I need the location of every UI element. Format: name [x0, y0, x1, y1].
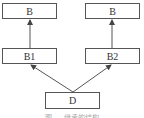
node-label: B	[109, 6, 116, 17]
node-label: D	[69, 95, 76, 106]
edge-d-to-b1	[31, 65, 73, 92]
node-b-right: B	[85, 3, 140, 19]
node-b1: B1	[2, 48, 57, 64]
node-label: B	[26, 6, 33, 17]
node-b2: B2	[85, 48, 140, 64]
edge-d-to-b2	[73, 65, 111, 92]
node-label: B1	[24, 51, 36, 62]
node-d: D	[45, 92, 100, 109]
node-b-left: B	[2, 3, 57, 19]
node-label: B2	[107, 51, 119, 62]
figure-caption: 图 … 继承的结构	[0, 112, 144, 118]
